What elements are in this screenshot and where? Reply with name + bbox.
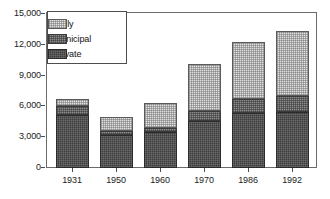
x-axis-tick-mark (72, 168, 73, 172)
legend-item-private: Private (54, 46, 126, 61)
bar-group-1986 (232, 12, 265, 168)
y-axis-tick-label: 9,000 (19, 70, 41, 80)
bar-segment-private (144, 132, 177, 168)
legend-item-daily: Daily (54, 16, 126, 31)
bar-segment-municipal (232, 99, 265, 113)
bar-segment-private (232, 113, 265, 168)
y-axis: 15,000 12,000 9,000 6,000 3,000 0 (0, 0, 41, 199)
legend-item-municipal: Municipal (54, 31, 126, 46)
y-axis-tick-mark (41, 13, 45, 14)
x-axis-tick-label: 1970 (194, 175, 214, 185)
bar-segment-municipal (188, 111, 221, 121)
x-axis-tick-mark (160, 168, 161, 172)
bar-segment-private (56, 115, 89, 168)
x-axis-tick-label: 1931 (62, 175, 82, 185)
bar-segment-daily (56, 99, 89, 106)
bar-segment-daily (100, 117, 133, 130)
bar-segment-private (188, 121, 221, 168)
x-axis-tick-label: 1992 (282, 175, 302, 185)
bar-group-1960 (144, 12, 177, 168)
bar-segment-daily (232, 42, 265, 100)
bar-segment-daily (144, 103, 177, 127)
x-axis-tick-mark (292, 168, 293, 172)
bar-segment-private (100, 135, 133, 168)
bar-segment-private (276, 112, 309, 168)
x-axis-tick-label: 1960 (150, 175, 170, 185)
y-axis-tick-mark (41, 136, 45, 137)
legend-swatch-private (48, 49, 67, 59)
y-axis-tick-mark (41, 167, 45, 168)
x-axis-tick-label: 1986 (238, 175, 258, 185)
y-axis-tick-mark (41, 44, 45, 45)
bar-segment-daily (188, 64, 221, 112)
y-axis-tick-mark (41, 75, 45, 76)
y-axis-tick-label: 3,000 (19, 131, 41, 141)
bar-segment-daily (276, 31, 309, 96)
bar-segment-municipal (276, 96, 309, 112)
y-axis-tick-label: 6,000 (19, 100, 41, 110)
legend-swatch-daily (48, 19, 67, 29)
bar-group-1992 (276, 12, 309, 168)
y-axis-tick-label: 15,000 (14, 8, 41, 18)
legend-swatch-municipal (48, 34, 67, 44)
bar-segment-municipal (56, 106, 89, 115)
stacked-bar-chart: 15,000 12,000 9,000 6,000 3,000 0 (0, 0, 330, 199)
x-axis-tick-mark (248, 168, 249, 172)
x-axis-tick-mark (204, 168, 205, 172)
y-axis-tick-label: 12,000 (14, 39, 41, 49)
bar-group-1970 (188, 12, 221, 168)
x-axis-tick-label: 1950 (106, 175, 126, 185)
y-axis-tick-mark (41, 105, 45, 106)
chart-legend: Daily Municipal Private (47, 11, 127, 64)
x-axis-tick-mark (116, 168, 117, 172)
